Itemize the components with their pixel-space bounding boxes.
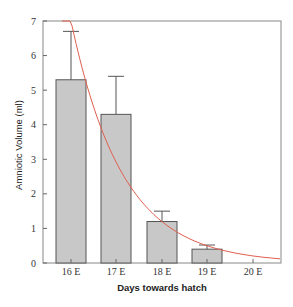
x-tick-label: 18 E <box>153 266 172 277</box>
y-axis-ticks: 01234567 <box>31 16 47 269</box>
bars <box>56 80 222 263</box>
y-tick-label: 1 <box>31 223 36 234</box>
x-tick-label: 20 E <box>244 266 263 277</box>
x-tick-label: 16 E <box>62 266 81 277</box>
bar-18e <box>147 222 177 263</box>
y-tick-label: 3 <box>31 154 36 165</box>
y-tick-label: 7 <box>31 16 36 27</box>
y-tick-label: 5 <box>31 85 36 96</box>
y-axis-title: Amniotic Volume (ml) <box>13 100 24 190</box>
x-axis-title: Days towards hatch <box>117 282 207 293</box>
y-tick-label: 2 <box>31 188 36 199</box>
amniotic-volume-chart: 01234567 16 E17 E18 E19 E20 E Amniotic V… <box>0 0 293 307</box>
x-axis-ticks: 16 E17 E18 E19 E20 E <box>62 259 263 277</box>
y-tick-label: 0 <box>31 258 36 269</box>
x-tick-label: 19 E <box>198 266 217 277</box>
x-tick-label: 17 E <box>107 266 126 277</box>
bar-17e <box>101 114 131 263</box>
y-tick-label: 6 <box>31 50 36 61</box>
y-tick-label: 4 <box>31 119 36 130</box>
bar-16e <box>56 80 86 263</box>
